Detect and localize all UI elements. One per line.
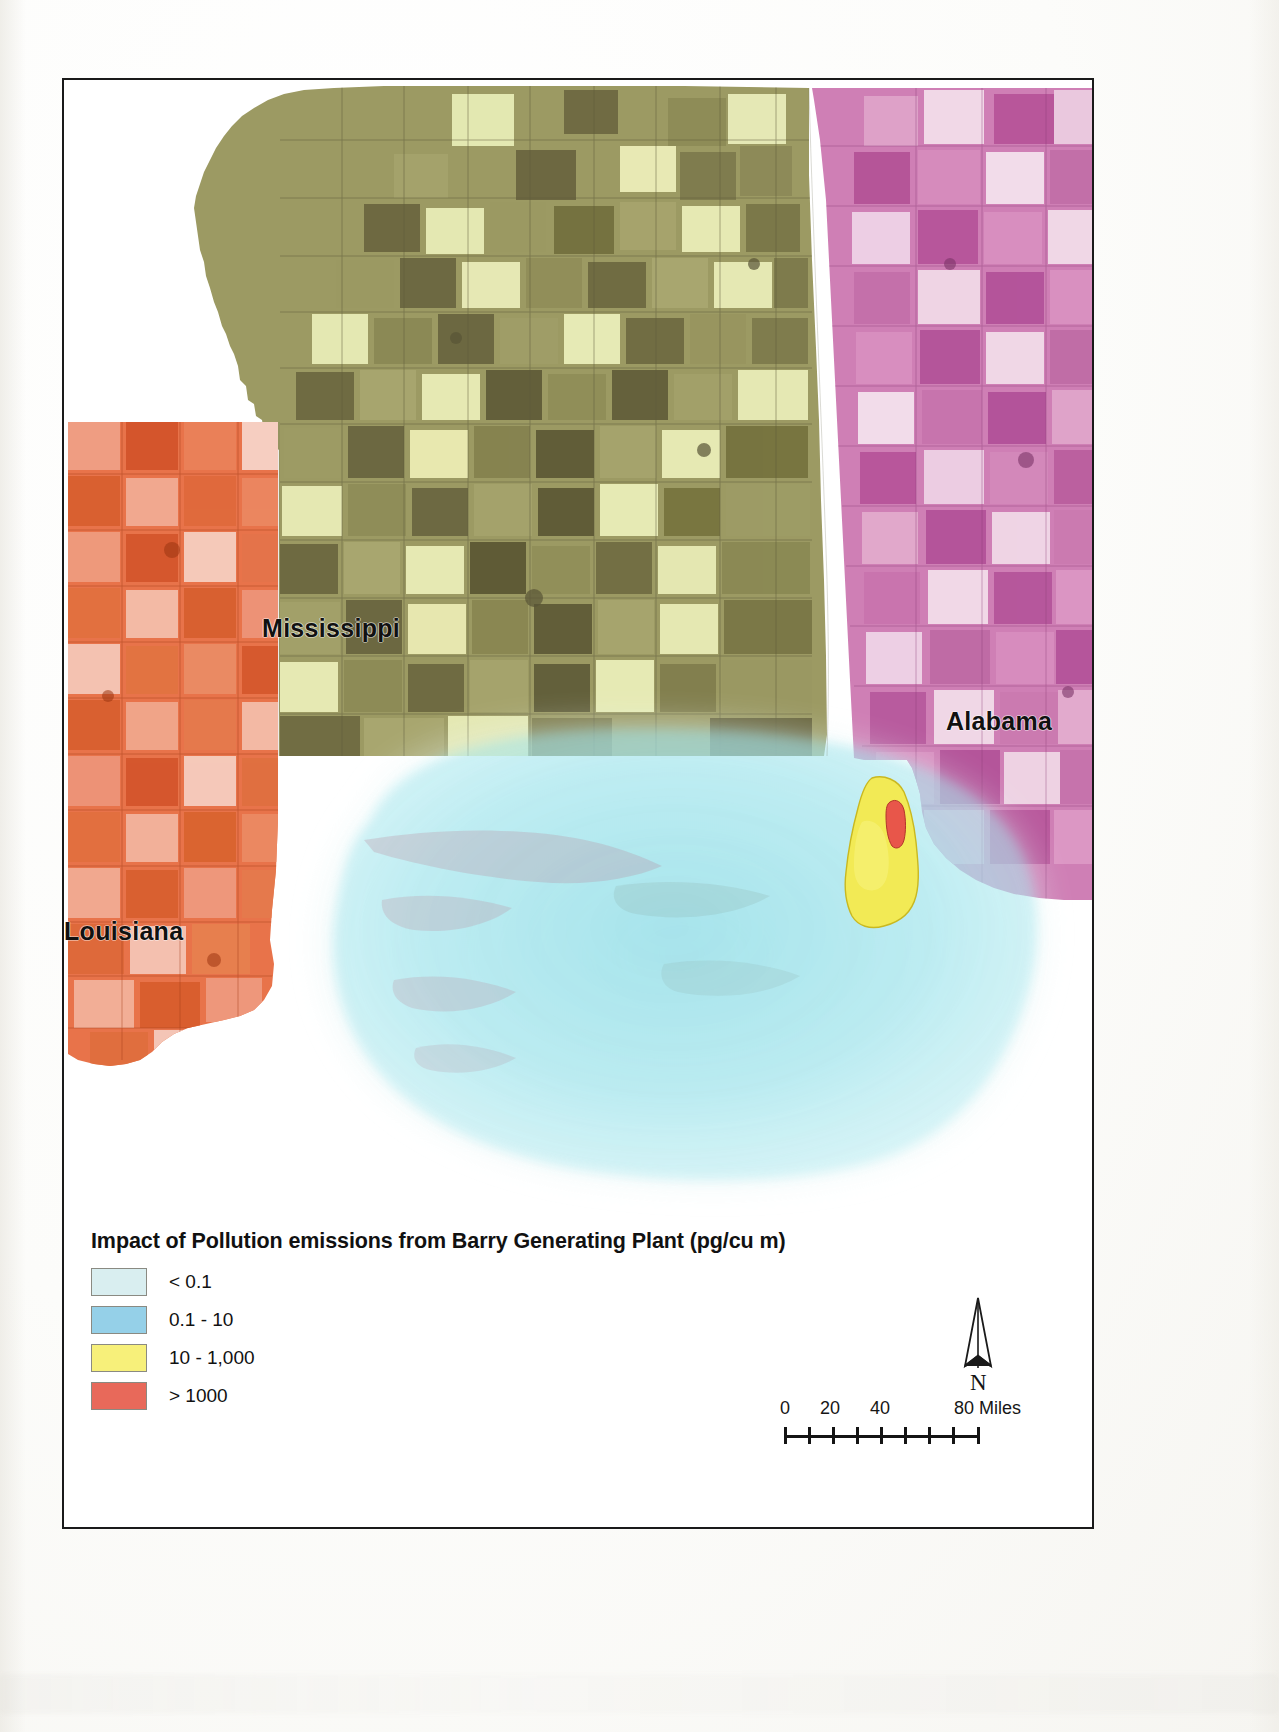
scan-edge-left <box>0 0 26 1732</box>
scale-tick <box>904 1427 907 1444</box>
legend-title: Impact of Pollution emissions from Barry… <box>91 1229 1021 1254</box>
scale-tick <box>977 1427 980 1444</box>
scale-tick <box>856 1427 859 1444</box>
north-arrow-letter: N <box>970 1370 987 1396</box>
legend-swatch-10-to-1000 <box>91 1344 147 1372</box>
scale-bar: 0 20 40 80 Miles <box>784 1398 984 1444</box>
legend-label-0-1-to-10: 0.1 - 10 <box>169 1309 233 1331</box>
scanned-page: Mississippi Alabama Louisiana Impact of … <box>0 0 1279 1732</box>
scale-tick-label-40: 40 <box>870 1398 890 1419</box>
hotspot-red-core <box>886 800 906 848</box>
scale-tick <box>808 1427 811 1444</box>
map-frame: Mississippi Alabama Louisiana Impact of … <box>62 78 1094 1529</box>
legend-swatch-gt-1000 <box>91 1382 147 1410</box>
legend-label-lt-0-1: < 0.1 <box>169 1271 212 1293</box>
map-legend: Impact of Pollution emissions from Barry… <box>91 1229 1021 1415</box>
scan-edge-right <box>1249 0 1279 1732</box>
scale-tick <box>784 1427 787 1444</box>
scale-tick <box>928 1427 931 1444</box>
scale-bar-graphic <box>784 1426 980 1444</box>
legend-swatch-lt-0-1 <box>91 1268 147 1296</box>
legend-item-lt-0-1[interactable]: < 0.1 <box>91 1263 1021 1301</box>
state-louisiana <box>64 415 294 1075</box>
plume-inner-cyan <box>333 729 1037 1180</box>
scale-tick <box>952 1427 955 1444</box>
scale-tick-label-20: 20 <box>820 1398 840 1419</box>
north-arrow: N <box>944 1292 1014 1402</box>
legend-label-10-to-1000: 10 - 1,000 <box>169 1347 255 1369</box>
legend-swatch-0-1-to-10 <box>91 1306 147 1334</box>
legend-label-gt-1000: > 1000 <box>169 1385 228 1407</box>
legend-item-10-to-1000[interactable]: 10 - 1,000 <box>91 1339 1021 1377</box>
scale-tick <box>880 1427 883 1444</box>
scale-tick-label-0: 0 <box>780 1398 790 1419</box>
legend-item-0-1-to-10[interactable]: 0.1 - 10 <box>91 1301 1021 1339</box>
scale-tick <box>832 1427 835 1444</box>
scan-bottom-artifact <box>0 1674 1279 1714</box>
